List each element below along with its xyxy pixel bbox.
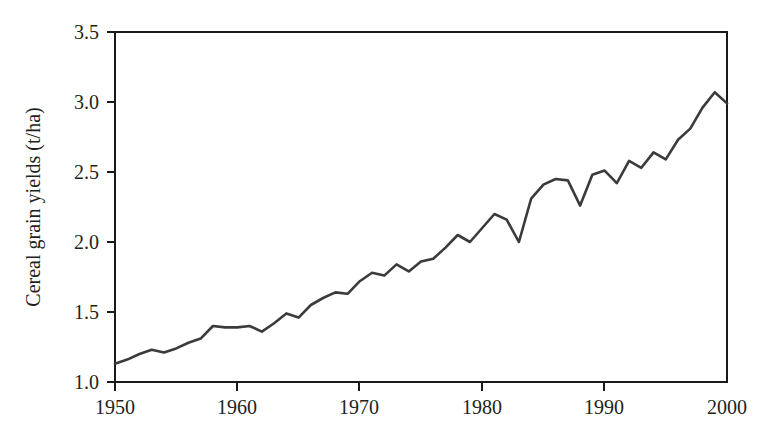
y-tick-label: 2.5: [74, 161, 99, 183]
x-tick-label: 1950: [95, 396, 135, 418]
x-tick-label: 1980: [462, 396, 502, 418]
cereal-grain-yields-line-chart: 3.5 3.0 2.5 2.0 1.5 1.0: [0, 0, 762, 441]
data-series-line: [115, 92, 727, 364]
y-tick-group-3.0: 3.0: [74, 91, 115, 113]
y-tick-group-2.5: 2.5: [74, 161, 115, 183]
x-tick-label: 1960: [217, 396, 257, 418]
x-tick-label: 1990: [584, 396, 624, 418]
y-tick-group-1.5: 1.5: [74, 301, 115, 323]
y-axis-title: Cereal grain yields (t/ha): [22, 107, 45, 306]
y-tick-label: 1.5: [74, 301, 99, 323]
y-tick-label: 2.0: [74, 231, 99, 253]
x-tick-label: 1970: [339, 396, 379, 418]
plot-frame: [115, 32, 727, 382]
x-tick-group-1960: 1960: [217, 382, 359, 418]
chart-figure: 3.5 3.0 2.5 2.0 1.5 1.0: [0, 0, 762, 441]
x-tick-label: 2000: [707, 396, 747, 418]
y-tick-group-1.0: 1.0: [74, 371, 115, 393]
y-tick-group-3.5: 3.5: [74, 21, 115, 43]
x-tick-group-1950: 1950: [95, 382, 135, 418]
y-axis: 3.5 3.0 2.5 2.0 1.5 1.0: [74, 21, 115, 393]
y-tick-label: 1.0: [74, 371, 99, 393]
x-axis: 1950 1960 1970 1980 1990 2000: [95, 382, 747, 418]
axis-box: [115, 32, 727, 382]
y-tick-label: 3.0: [74, 91, 99, 113]
y-tick-label: 3.5: [74, 21, 99, 43]
y-tick-group-2.0: 2.0: [74, 231, 115, 253]
